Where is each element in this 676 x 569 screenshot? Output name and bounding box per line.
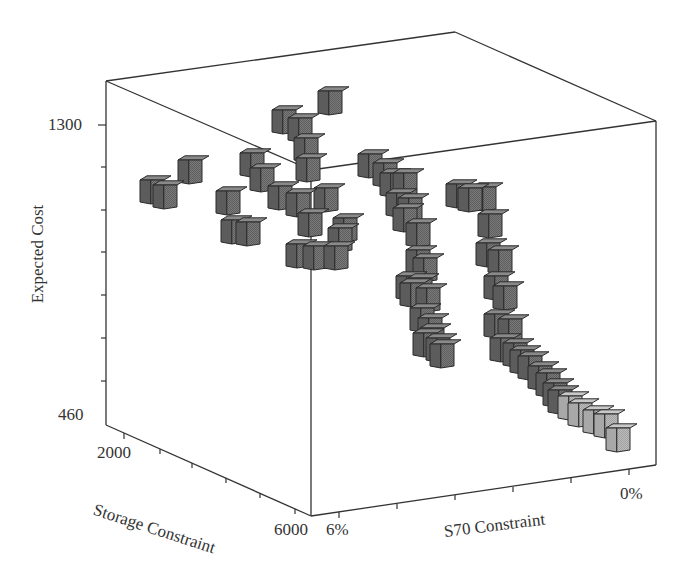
x-tick-6000: 6000 (274, 520, 308, 540)
z-axis-title: Expected Cost (28, 199, 48, 309)
cube-marker (430, 340, 461, 368)
y-axis-ticks (339, 469, 629, 518)
cube-marker (314, 184, 345, 212)
cube-marker (216, 187, 247, 215)
cube-marker (318, 87, 349, 115)
x-tick-2000: 2000 (97, 443, 131, 463)
cube-marker (153, 181, 184, 209)
z-tick-460: 460 (58, 405, 84, 425)
cube-marker (493, 282, 524, 310)
cube-marker (478, 210, 509, 238)
plot-frame (106, 32, 656, 516)
x-axis-ticks (124, 433, 295, 514)
cube-marker (298, 209, 329, 237)
cube-marker (178, 156, 209, 184)
y-tick-6pct: 6% (326, 520, 349, 540)
z-tick-1300: 1300 (48, 115, 82, 135)
cube-marker (606, 424, 637, 452)
cube-marker (236, 218, 267, 246)
cube-markers (140, 87, 637, 452)
y-tick-0pct: 0% (620, 484, 643, 504)
cube-marker (488, 246, 519, 274)
z-axis-ticks (98, 125, 106, 381)
cube-marker (406, 219, 437, 247)
3d-scatter-plot (0, 0, 676, 569)
